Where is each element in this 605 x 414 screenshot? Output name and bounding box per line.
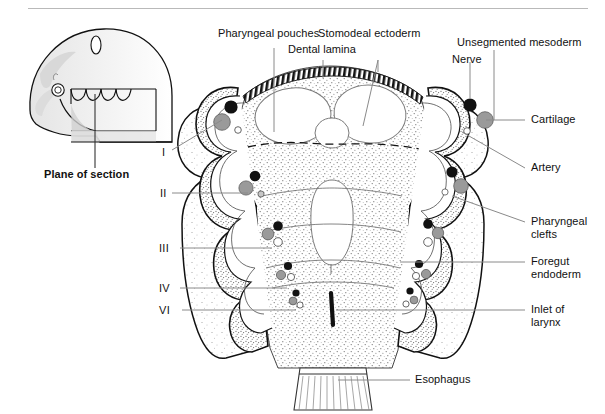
pharyngeal-section (178, 66, 493, 410)
label-artery: Artery (531, 161, 561, 174)
artery-dot-left-2 (258, 191, 264, 197)
nerve-dot-left-2 (250, 171, 261, 182)
cartilage-dot-right-4 (421, 269, 430, 278)
artery-dot-right-6 (403, 301, 409, 307)
label-arch-1: I (162, 146, 165, 159)
artery-dot-left-1 (235, 127, 242, 134)
nerve-dot-left-3 (273, 221, 283, 231)
label-pharyngeal-clefts-line2: clefts (531, 228, 557, 241)
artery-dot-right-3 (424, 238, 433, 247)
nerve-dot-right-3 (423, 219, 433, 229)
artery-dot-left-6 (297, 302, 303, 308)
label-pharyngeal-clefts-line1: Pharyngeal (531, 215, 587, 228)
cartilage-dot-right-3 (432, 227, 443, 238)
cartilage-dot-left-4 (276, 270, 285, 279)
label-arch-6: VI (159, 304, 170, 317)
label-unsegmented-mesoderm: Unsegmented mesoderm (457, 36, 582, 49)
label-arch-4: IV (159, 282, 170, 295)
cartilage-dot-left-6 (289, 297, 297, 305)
label-nerve: Nerve (452, 53, 482, 66)
nerve-dot-right-4 (415, 260, 423, 268)
label-plane-of-section: Plane of section (44, 168, 129, 181)
artery-dot-right-2 (442, 189, 448, 195)
label-arch-2: II (160, 187, 167, 200)
label-foregut-endoderm-line1: Foregut (531, 255, 569, 268)
label-esophagus: Esophagus (415, 373, 471, 386)
nerve-dot-left-4 (284, 262, 292, 270)
label-inlet-of-larynx-line2: larynx (531, 316, 561, 329)
nerve-dot-left-1 (224, 100, 237, 113)
label-dental-lamina: Dental lamina (288, 43, 356, 56)
nerve-dot-right-2 (446, 166, 457, 177)
cartilage-dot-right-2 (454, 179, 469, 194)
cartilage-dot-left-3 (262, 228, 274, 240)
label-arch-3: III (159, 242, 169, 255)
label-inlet-of-larynx-line1: Inlet of (531, 303, 564, 316)
label-cartilage: Cartilage (531, 113, 575, 126)
cartilage-dot-right-6 (410, 296, 418, 304)
nerve-dot-left-6 (292, 289, 299, 296)
figure-root: Pharyngeal pouches Dental lamina Stomode… (0, 0, 605, 414)
inset-embryo-head (30, 29, 172, 168)
nerve-dot-right-1 (463, 98, 476, 111)
label-foregut-endoderm-line2: endoderm (531, 268, 581, 281)
label-pharyngeal-pouches: Pharyngeal pouches (218, 27, 319, 40)
nerve-dot-right-6 (406, 287, 413, 294)
artery-dot-left-3 (274, 238, 283, 247)
artery-dot-right-4 (412, 272, 419, 279)
cartilage-dot-left-1 (214, 114, 231, 131)
anatomical-illustration (0, 0, 605, 414)
artery-dot-left-4 (287, 273, 294, 280)
label-stomodeal-ectoderm: Stomodeal ectoderm (318, 27, 420, 40)
